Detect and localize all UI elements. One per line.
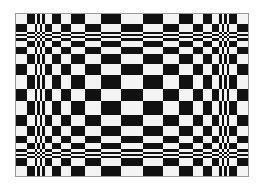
checker-cell: [229, 14, 237, 24]
checker-cell: [229, 24, 237, 32]
checker-cell: [237, 14, 248, 24]
checker-cell: [143, 47, 163, 54]
checker-cell: [71, 75, 85, 89]
checker-cell: [101, 166, 121, 176]
checker-cell: [212, 101, 219, 115]
checker-cell: [193, 54, 203, 64]
checker-cell: [179, 75, 193, 89]
checker-cell: [121, 158, 143, 166]
checker-cell: [61, 101, 71, 115]
checker-cell: [71, 64, 85, 75]
checker-cell: [179, 115, 193, 126]
checker-cell: [61, 115, 71, 126]
checker-cell: [237, 54, 248, 64]
checker-cell: [52, 24, 61, 32]
checker-cell: [121, 101, 143, 115]
checker-cell: [27, 115, 35, 126]
checker-cell: [143, 126, 163, 136]
checker-cell: [203, 64, 212, 75]
checker-cell: [45, 126, 52, 136]
checker-cell: [121, 75, 143, 89]
checker-cell: [163, 14, 179, 24]
checker-cell: [237, 24, 248, 32]
checker-cell: [16, 158, 27, 166]
checker-cell: [163, 136, 179, 143]
checker-cell: [71, 89, 85, 101]
checker-cell: [85, 126, 101, 136]
checker-cell: [61, 126, 71, 136]
checker-cell: [71, 47, 85, 54]
checker-cell: [52, 75, 61, 89]
checker-cell: [193, 24, 203, 32]
checker-cell: [71, 126, 85, 136]
checker-cell: [101, 54, 121, 64]
checker-cell: [179, 166, 193, 176]
checker-cell: [237, 158, 248, 166]
checker-cell: [237, 64, 248, 75]
checker-cell: [212, 158, 219, 166]
checker-cell: [52, 101, 61, 115]
checker-cell: [229, 126, 237, 136]
checker-cell: [61, 166, 71, 176]
checker-cell: [237, 101, 248, 115]
checker-cell: [16, 115, 27, 126]
checker-cell: [143, 64, 163, 75]
checker-cell: [229, 158, 237, 166]
checker-cell: [85, 136, 101, 143]
checker-cell: [203, 54, 212, 64]
checker-cell: [27, 64, 35, 75]
checker-cell: [16, 24, 27, 32]
checker-cell: [179, 64, 193, 75]
checker-cell: [16, 126, 27, 136]
checker-cell: [85, 24, 101, 32]
checker-cell: [237, 47, 248, 54]
checker-cell: [163, 64, 179, 75]
checker-cell: [212, 24, 219, 32]
checker-cell: [143, 166, 163, 176]
checkerboard-grid: [16, 14, 248, 176]
checker-cell: [212, 75, 219, 89]
checker-cell: [61, 136, 71, 143]
checker-cell: [61, 89, 71, 101]
checker-cell: [229, 101, 237, 115]
checker-cell: [212, 166, 219, 176]
checker-cell: [212, 136, 219, 143]
checker-cell: [27, 166, 35, 176]
checker-cell: [61, 47, 71, 54]
checker-cell: [101, 89, 121, 101]
checker-cell: [45, 14, 52, 24]
checker-cell: [193, 47, 203, 54]
checker-cell: [143, 115, 163, 126]
checker-cell: [203, 166, 212, 176]
checker-cell: [71, 158, 85, 166]
checker-cell: [203, 89, 212, 101]
checker-cell: [203, 115, 212, 126]
checker-cell: [52, 126, 61, 136]
checker-cell: [121, 115, 143, 126]
checker-cell: [203, 136, 212, 143]
checker-cell: [121, 136, 143, 143]
checker-cell: [193, 89, 203, 101]
checker-cell: [121, 64, 143, 75]
checker-cell: [61, 64, 71, 75]
checker-cell: [45, 75, 52, 89]
checker-cell: [143, 158, 163, 166]
checker-cell: [179, 24, 193, 32]
checker-cell: [61, 158, 71, 166]
checker-cell: [229, 75, 237, 89]
checker-cell: [27, 47, 35, 54]
checker-cell: [229, 47, 237, 54]
checker-cell: [212, 54, 219, 64]
checker-cell: [229, 115, 237, 126]
checker-cell: [85, 75, 101, 89]
checker-cell: [179, 54, 193, 64]
checker-cell: [121, 166, 143, 176]
checker-cell: [193, 14, 203, 24]
checker-cell: [163, 47, 179, 54]
checker-cell: [179, 89, 193, 101]
checker-cell: [71, 115, 85, 126]
checker-cell: [179, 101, 193, 115]
checker-cell: [229, 64, 237, 75]
checker-cell: [163, 166, 179, 176]
checker-cell: [212, 64, 219, 75]
